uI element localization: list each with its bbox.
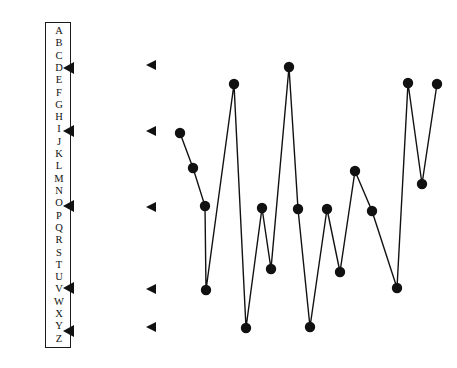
alphabet-letter-b[interactable]: B	[46, 37, 72, 49]
data-point-15[interactable]	[367, 206, 377, 216]
alphabet-letter-e[interactable]: E	[46, 74, 72, 86]
alphabet-letter-g[interactable]: G	[46, 99, 72, 111]
data-point-9[interactable]	[284, 62, 294, 72]
alphabet-letter-r[interactable]: R	[46, 234, 72, 246]
gutter-arrow-5[interactable]	[146, 322, 156, 332]
alphabet-letter-k[interactable]: K	[46, 148, 72, 160]
gutter-arrow-4[interactable]	[146, 284, 156, 294]
alphabet-letter-x[interactable]: X	[46, 308, 72, 320]
data-point-6[interactable]	[241, 323, 251, 333]
data-point-18[interactable]	[417, 179, 427, 189]
data-point-2[interactable]	[188, 163, 198, 173]
alphabet-letter-s[interactable]: S	[46, 247, 72, 259]
index-marker-arrow-y[interactable]	[63, 325, 74, 337]
series-line-path	[180, 67, 437, 328]
index-marker-arrow-d[interactable]	[63, 62, 74, 74]
data-point-13[interactable]	[335, 267, 345, 277]
data-point-11[interactable]	[305, 322, 315, 332]
alphabet-letter-m[interactable]: M	[46, 173, 72, 185]
data-point-16[interactable]	[392, 283, 402, 293]
data-point-12[interactable]	[322, 204, 332, 214]
data-point-10[interactable]	[293, 204, 303, 214]
data-point-1[interactable]	[175, 128, 185, 138]
gutter-arrow-2[interactable]	[146, 126, 156, 136]
alphabet-letter-t[interactable]: T	[46, 259, 72, 271]
alphabet-letter-h[interactable]: H	[46, 111, 72, 123]
gutter-arrow-3[interactable]	[146, 202, 156, 212]
data-point-8[interactable]	[266, 264, 276, 274]
alphabet-letter-f[interactable]: F	[46, 87, 72, 99]
alphabet-letter-n[interactable]: N	[46, 185, 72, 197]
index-marker-arrow-o[interactable]	[63, 200, 74, 212]
alphabet-letter-j[interactable]: J	[46, 136, 72, 148]
screenshot-canvas: ABCDEFGHIJKLMNOPQRSTUVWXYZ	[0, 0, 457, 368]
alphabet-letter-q[interactable]: Q	[46, 222, 72, 234]
gutter-arrow-1[interactable]	[146, 60, 156, 70]
data-point-4[interactable]	[201, 285, 211, 295]
data-point-17[interactable]	[403, 78, 413, 88]
alphabet-letter-w[interactable]: W	[46, 296, 72, 308]
index-marker-arrow-u[interactable]	[63, 282, 74, 294]
alphabet-letter-l[interactable]: L	[46, 160, 72, 172]
data-point-14[interactable]	[350, 166, 360, 176]
data-point-19[interactable]	[432, 79, 442, 89]
alphabet-letter-a[interactable]: A	[46, 25, 72, 37]
index-marker-arrow-i[interactable]	[63, 125, 74, 137]
alphabet-letter-c[interactable]: C	[46, 50, 72, 62]
data-point-3[interactable]	[200, 201, 210, 211]
data-point-7[interactable]	[257, 203, 267, 213]
data-point-5[interactable]	[229, 79, 239, 89]
series-marker-group	[175, 62, 442, 333]
